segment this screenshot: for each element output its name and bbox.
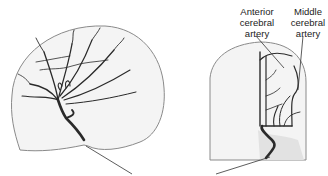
label-anterior-cerebral-artery: Anterior cerebral artery (226, 6, 288, 39)
label-line: cerebral (226, 17, 288, 28)
label-line: Anterior (226, 6, 288, 17)
lateral-skull-panel (11, 26, 164, 151)
label-line: artery (226, 28, 288, 39)
label-middle-cerebral-artery: Middle cerebral artery (288, 6, 328, 39)
frontal-skull-panel (210, 42, 306, 160)
label-line: artery (288, 28, 328, 39)
label-line: Middle (288, 6, 328, 17)
leader-left (86, 146, 132, 174)
label-line: cerebral (288, 17, 328, 28)
